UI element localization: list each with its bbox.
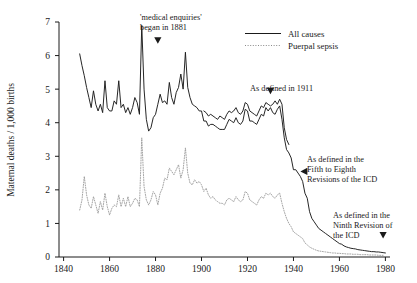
x-tick-label: 1980 xyxy=(376,264,395,274)
y-axis-title: Maternal deaths / 1,000 births xyxy=(6,83,16,197)
x-tick-group: 18401860188019001920194019601980 xyxy=(54,257,395,274)
annotation-icd-ninth: As defined in theNinth Revision ofthe IC… xyxy=(333,211,393,240)
y-tick-label: 2 xyxy=(45,185,50,195)
annotation-marker-down-triangle xyxy=(380,232,387,239)
y-tick-label: 1 xyxy=(45,219,50,229)
annotation-text-line: began in 1881 xyxy=(140,23,187,32)
y-tick-label: 0 xyxy=(45,252,50,262)
chart-canvas: 01234567 1840186018801900192019401960198… xyxy=(0,0,417,283)
x-tick-label: 1920 xyxy=(238,264,257,274)
legend-label-puerpal-sepsis: Puerpal sepsis xyxy=(288,41,339,51)
annotation-marker-down-triangle xyxy=(154,37,161,44)
annotation-text-line: As defined in 1911 xyxy=(250,84,313,93)
legend-label-all-causes: All causes xyxy=(288,29,325,39)
series-line xyxy=(204,99,289,144)
annotation-text-line: Ninth Revision of xyxy=(333,221,393,230)
x-tick-label: 1960 xyxy=(330,264,349,274)
y-tick-label: 5 xyxy=(45,85,50,95)
x-tick-label: 1880 xyxy=(146,264,165,274)
annotation-text-line: As defined in the xyxy=(333,211,390,220)
y-tick-label: 7 xyxy=(45,17,50,27)
x-tick-label: 1840 xyxy=(54,264,73,274)
annotation-group: 'medical enquiries'began in 1881As defin… xyxy=(140,13,393,240)
annotation-text-line: As defined in the xyxy=(307,155,364,164)
y-tick-label: 4 xyxy=(45,118,50,128)
annotation-as-defined-1911: As defined in 1911 xyxy=(250,84,313,94)
x-tick-label: 1900 xyxy=(192,264,211,274)
legend-group: All causes Puerpal sepsis xyxy=(245,29,339,51)
x-tick-label: 1860 xyxy=(100,264,119,274)
annotation-medical-enquiries: 'medical enquiries'began in 1881 xyxy=(140,13,202,44)
annotation-icd-fifth-to-eighth: As defined in theFifth to EighthRevision… xyxy=(300,155,377,184)
y-tick-label: 6 xyxy=(45,51,50,61)
annotation-text-line: Fifth to Eighth xyxy=(307,165,357,174)
y-tick-group: 01234567 xyxy=(45,17,59,262)
annotation-text-line: Revisions of the ICD xyxy=(307,175,377,184)
annotation-text-line: 'medical enquiries' xyxy=(140,13,202,22)
maternal-mortality-chart: 01234567 1840186018801900192019401960198… xyxy=(0,0,417,283)
y-tick-label: 3 xyxy=(45,152,50,162)
annotation-marker-left-triangle xyxy=(300,168,307,175)
x-tick-label: 1940 xyxy=(284,264,303,274)
annotation-text-line: the ICD xyxy=(333,231,360,240)
